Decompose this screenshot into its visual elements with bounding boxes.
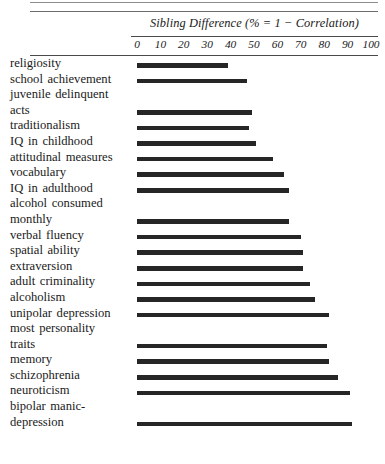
value-bar	[137, 188, 289, 193]
chart-row: schizophrenia	[0, 368, 385, 384]
value-bar	[137, 344, 327, 349]
row-label: verbal fluency	[10, 228, 84, 244]
table-rule-top	[30, 11, 378, 12]
row-label: IQ in adulthood	[10, 181, 93, 197]
row-label: neuroticism	[10, 383, 69, 399]
row-label: juvenile delinquent	[10, 87, 108, 103]
row-label: most personality	[10, 321, 95, 337]
value-bar	[137, 219, 289, 224]
row-label: memory	[10, 352, 52, 368]
value-bar	[137, 79, 247, 84]
chart-row: spatial ability	[0, 243, 385, 259]
x-tick-label: 20	[178, 38, 189, 50]
x-tick-label: 40	[225, 38, 236, 50]
row-label: IQ in childhood	[10, 134, 93, 150]
row-label: depression	[10, 415, 64, 431]
x-tick-label: 80	[318, 38, 329, 50]
row-label: school achievement	[10, 72, 111, 88]
x-tick-label: 90	[342, 38, 353, 50]
bar-track	[137, 150, 378, 166]
row-label: adult criminality	[10, 274, 95, 290]
value-bar	[137, 172, 284, 177]
bar-track	[137, 72, 378, 88]
bar-track	[137, 259, 378, 275]
x-axis-tick-labels: 0102030405060708090100	[0, 38, 385, 53]
value-bar	[137, 126, 249, 131]
chart-row: monthly	[0, 212, 385, 228]
bar-track	[137, 134, 378, 150]
value-bar	[137, 157, 273, 162]
chart-row: neuroticism	[0, 383, 385, 399]
chart-row: IQ in childhood	[0, 134, 385, 150]
value-bar	[137, 266, 303, 271]
bar-track	[137, 290, 378, 306]
row-label: unipolar depression	[10, 306, 110, 322]
row-label: religiosity	[10, 56, 61, 72]
chart-row: traits	[0, 337, 385, 353]
x-tick-label: 70	[295, 38, 306, 50]
row-label: alcohol consumed	[10, 196, 103, 212]
axis-title: Sibling Difference (% = 1 − Correlation)	[131, 16, 378, 31]
row-label: traits	[10, 337, 35, 353]
row-label: spatial ability	[10, 243, 80, 259]
page-rule-top-cut	[30, 2, 378, 3]
value-bar	[137, 110, 252, 115]
bar-track	[137, 274, 378, 290]
sibling-difference-chart: Sibling Difference (% = 1 − Correlation)…	[0, 0, 385, 464]
chart-row: memory	[0, 352, 385, 368]
bar-track	[137, 212, 378, 228]
chart-row: unipolar depression	[0, 306, 385, 322]
chart-row: most personality	[0, 321, 385, 337]
bar-track	[137, 181, 378, 197]
row-label: vocabulary	[10, 165, 66, 181]
chart-row: acts	[0, 103, 385, 119]
bar-track	[137, 306, 378, 322]
row-label: alcoholism	[10, 290, 65, 306]
x-tick-label: 30	[201, 38, 212, 50]
value-bar	[137, 250, 303, 255]
bar-track	[137, 352, 378, 368]
value-bar	[137, 297, 315, 302]
chart-row: depression	[0, 415, 385, 431]
row-label: monthly	[10, 212, 52, 228]
value-bar	[137, 235, 301, 240]
x-tick-label: 100	[362, 38, 379, 50]
x-tick-label: 50	[248, 38, 259, 50]
chart-row: alcohol consumed	[0, 196, 385, 212]
row-label: bipolar manic-	[10, 399, 85, 415]
chart-row: IQ in adulthood	[0, 181, 385, 197]
value-bar	[137, 422, 352, 427]
chart-row: traditionalism	[0, 118, 385, 134]
row-label: extraversion	[10, 259, 72, 275]
bar-track	[137, 243, 378, 259]
row-label: attitudinal measures	[10, 150, 113, 166]
bar-track	[137, 415, 378, 431]
bar-track	[137, 383, 378, 399]
bar-track	[137, 228, 378, 244]
bar-track	[137, 103, 378, 119]
value-bar	[137, 282, 310, 287]
x-tick-label: 0	[134, 38, 140, 50]
bar-track	[137, 337, 378, 353]
value-bar	[137, 313, 329, 318]
chart-row: juvenile delinquent	[0, 87, 385, 103]
bar-track	[137, 165, 378, 181]
value-bar	[137, 391, 350, 396]
chart-row: vocabulary	[0, 165, 385, 181]
chart-row: alcoholism	[0, 290, 385, 306]
chart-rows: religiosityschool achievementjuvenile de…	[0, 56, 385, 430]
chart-row: extraversion	[0, 259, 385, 275]
value-bar	[137, 141, 256, 146]
value-bar	[137, 63, 228, 68]
x-tick-label: 10	[155, 38, 166, 50]
value-bar	[137, 375, 338, 380]
row-label: traditionalism	[10, 118, 80, 134]
bar-track	[137, 56, 378, 72]
row-label: acts	[10, 103, 30, 119]
chart-row: school achievement	[0, 72, 385, 88]
chart-row: attitudinal measures	[0, 150, 385, 166]
chart-row: verbal fluency	[0, 228, 385, 244]
bar-track	[137, 118, 378, 134]
value-bar	[137, 359, 329, 364]
table-rule-under-title	[131, 36, 378, 37]
